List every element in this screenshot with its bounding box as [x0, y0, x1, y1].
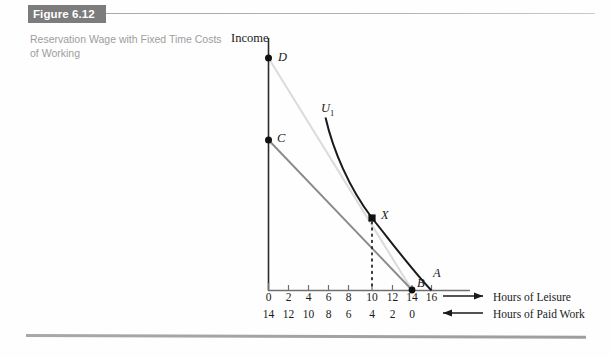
indifference-curve-u1 — [326, 118, 432, 291]
point-label-d: D — [278, 50, 287, 65]
tick-label-leisure-16: 16 — [423, 291, 441, 303]
tick-label-leisure-4: 4 — [300, 291, 318, 303]
tick-label-work-14: 14 — [260, 308, 278, 320]
point-label-x: X — [381, 208, 389, 223]
tick-label-leisure-8: 8 — [340, 291, 358, 303]
tick-label-work-8: 8 — [320, 308, 338, 320]
point-marker-x — [368, 214, 375, 221]
point-marker-c — [265, 137, 272, 144]
budget-line-D-B — [269, 58, 413, 290]
tick-label-work-10: 10 — [300, 308, 318, 320]
tick-label-leisure-12: 12 — [384, 291, 402, 303]
x-axis-legend-work: Hours of Paid Work — [493, 308, 585, 320]
tick-label-leisure-2: 2 — [280, 291, 298, 303]
tick-label-leisure-0: 0 — [260, 291, 278, 303]
tick-label-work-2: 2 — [384, 308, 402, 320]
tick-label-leisure-14: 14 — [403, 291, 421, 303]
curve-label-u1: U1 — [321, 101, 334, 118]
chart-figure: Income D C X B A U1 0246810121416 141210… — [0, 0, 611, 357]
point-label-a: A — [433, 266, 441, 281]
point-label-c: C — [277, 131, 285, 146]
y-axis-title: Income — [231, 31, 268, 46]
tick-label-work-12: 12 — [280, 308, 298, 320]
curve-label-u1-subscript: 1 — [330, 108, 334, 118]
x-axis-legend-leisure: Hours of Leisure — [493, 291, 571, 303]
curve-label-u1-base: U — [321, 101, 330, 115]
point-label-b: B — [417, 276, 425, 291]
tick-label-work-4: 4 — [363, 308, 381, 320]
tick-label-leisure-10: 10 — [363, 291, 381, 303]
tick-label-work-6: 6 — [340, 308, 358, 320]
tick-label-leisure-6: 6 — [320, 291, 338, 303]
point-marker-d — [265, 55, 272, 62]
tick-label-work-0: 0 — [403, 308, 421, 320]
